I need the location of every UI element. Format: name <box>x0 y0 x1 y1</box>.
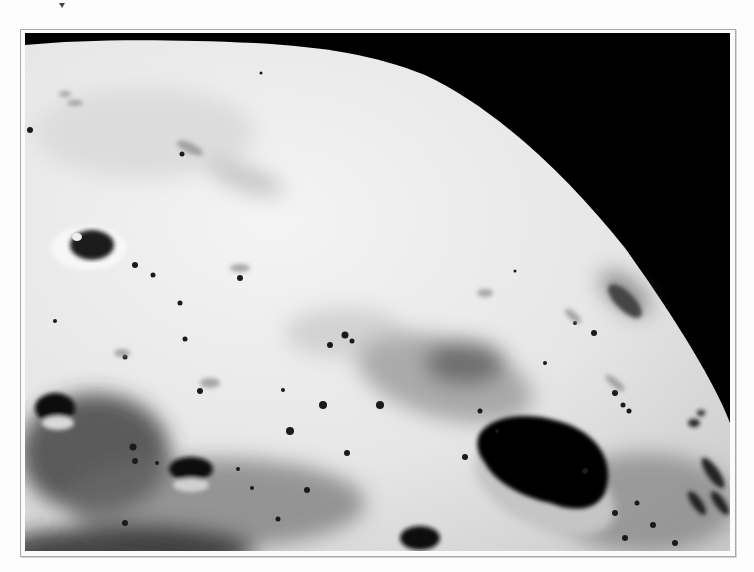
moon-surface-illustration <box>25 33 730 551</box>
crater-left <box>51 226 127 270</box>
moon-surface-photo <box>25 33 730 551</box>
triangle-down-icon <box>59 3 65 8</box>
